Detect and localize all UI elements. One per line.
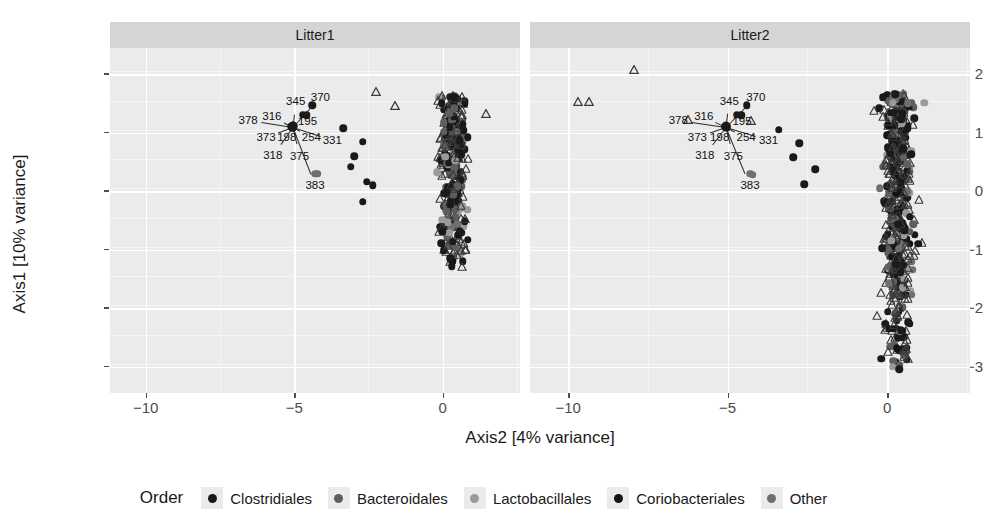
data-point-triangle bbox=[892, 228, 902, 238]
data-point-triangle bbox=[869, 106, 879, 116]
annotation-label: 254 bbox=[737, 131, 756, 143]
x-tick-label: −10 bbox=[538, 399, 598, 416]
data-point-triangle bbox=[890, 175, 900, 185]
gridline-vertical-minor bbox=[648, 48, 649, 393]
legend-item-coriobacteriales[interactable]: Coriobacteriales bbox=[607, 487, 744, 509]
data-point-circle bbox=[800, 180, 808, 188]
data-point-circle bbox=[889, 99, 897, 107]
legend-item-label: Coriobacteriales bbox=[636, 490, 744, 507]
data-point-circle bbox=[897, 326, 905, 334]
data-point-triangle bbox=[456, 201, 466, 211]
data-point-triangle bbox=[448, 170, 458, 180]
gridline-horizontal-minor bbox=[110, 276, 520, 277]
x-tick-label: −10 bbox=[116, 399, 176, 416]
legend-item-bacteroidales[interactable]: Bacteroidales bbox=[328, 487, 448, 509]
legend-item-label: Bacteroidales bbox=[357, 490, 448, 507]
data-point-circle bbox=[311, 170, 319, 178]
gridline-horizontal-minor bbox=[530, 71, 970, 72]
data-point-circle bbox=[446, 201, 454, 209]
panel-header-litter1: Litter1 bbox=[110, 22, 520, 48]
panel-header-litter2-label: Litter2 bbox=[731, 27, 770, 43]
data-point-circle bbox=[446, 93, 454, 101]
y-axis-title: Axis1 [10% variance] bbox=[6, 34, 34, 434]
data-point-triangle bbox=[893, 166, 903, 176]
data-point-circle bbox=[895, 245, 903, 253]
data-point-triangle bbox=[872, 311, 882, 321]
gridline-horizontal-minor bbox=[530, 364, 970, 365]
data-point-circle bbox=[448, 263, 456, 271]
annotation-label: 375 bbox=[724, 150, 743, 162]
data-point-circle bbox=[796, 140, 804, 148]
annotation-label: 370 bbox=[311, 91, 330, 103]
y-tick-mark bbox=[104, 366, 109, 368]
y-tick-mark bbox=[104, 132, 109, 134]
gridline-horizontal-minor bbox=[110, 71, 520, 72]
x-tick-label: 0 bbox=[857, 399, 917, 416]
annotation-label: 316 bbox=[262, 110, 281, 122]
data-point-circle bbox=[438, 100, 446, 108]
data-point-circle bbox=[878, 355, 886, 363]
data-point-triangle bbox=[889, 201, 899, 211]
data-point-triangle bbox=[446, 180, 456, 190]
data-point-triangle bbox=[458, 262, 468, 272]
data-point-circle bbox=[893, 345, 901, 353]
data-point-circle bbox=[359, 198, 367, 206]
data-point-circle bbox=[438, 239, 446, 247]
annotation-label: 375 bbox=[290, 150, 309, 162]
gridline-horizontal bbox=[530, 367, 970, 369]
gridline-horizontal bbox=[530, 74, 970, 76]
data-point-triangle bbox=[903, 278, 913, 288]
x-tick-label: −5 bbox=[698, 399, 758, 416]
data-point-circle bbox=[350, 152, 358, 160]
annotation-label: 370 bbox=[746, 91, 765, 103]
data-point-triangle bbox=[371, 87, 381, 97]
gridline-horizontal-minor bbox=[110, 305, 520, 306]
data-point-circle bbox=[908, 151, 916, 159]
scatter-panel-litter1: 378316345370195373198254331318375383 bbox=[110, 48, 520, 393]
annotation-label: 345 bbox=[286, 95, 305, 107]
data-point-circle bbox=[369, 182, 377, 190]
data-point-triangle bbox=[890, 313, 900, 323]
data-point-circle bbox=[879, 94, 887, 102]
gridline-vertical-minor bbox=[368, 48, 369, 393]
annotation-label: 195 bbox=[298, 115, 317, 127]
gridline-vertical-minor bbox=[220, 48, 221, 393]
legend-item-label: Clostridiales bbox=[230, 490, 312, 507]
data-point-circle bbox=[450, 105, 458, 113]
data-point-triangle bbox=[457, 105, 467, 115]
annotation-label: 318 bbox=[263, 149, 282, 161]
annotation-label: 198 bbox=[710, 131, 729, 143]
legend-key-swatch bbox=[464, 487, 486, 509]
annotation-label: 318 bbox=[695, 149, 714, 161]
data-point-circle bbox=[339, 124, 347, 132]
annotation-label: 373 bbox=[256, 131, 275, 143]
y-tick-mark bbox=[104, 307, 109, 309]
data-point-circle bbox=[888, 237, 896, 245]
data-point-circle bbox=[920, 99, 928, 107]
legend-key-swatch bbox=[201, 487, 223, 509]
annotation-label: 345 bbox=[720, 95, 739, 107]
legend-dot-icon bbox=[334, 494, 343, 503]
data-point-triangle bbox=[459, 239, 469, 249]
gridline-vertical-minor bbox=[807, 48, 808, 393]
x-tick-mark bbox=[443, 393, 445, 398]
data-point-triangle bbox=[573, 97, 583, 107]
data-point-triangle bbox=[903, 254, 913, 264]
data-point-triangle bbox=[452, 123, 462, 133]
data-point-circle bbox=[464, 133, 472, 141]
x-tick-label: −5 bbox=[264, 399, 324, 416]
legend-key-swatch bbox=[328, 487, 350, 509]
data-point-triangle bbox=[889, 142, 899, 152]
legend-item-lactobacillales[interactable]: Lactobacillales bbox=[464, 487, 591, 509]
data-point-circle bbox=[906, 213, 914, 221]
legend-title: Order bbox=[140, 488, 183, 508]
data-point-circle bbox=[904, 100, 912, 108]
annotation-label: 331 bbox=[323, 134, 342, 146]
data-point-circle bbox=[456, 137, 464, 145]
legend-item-clostridiales[interactable]: Clostridiales bbox=[201, 487, 312, 509]
data-point-triangle bbox=[457, 92, 467, 102]
legend-dot-icon bbox=[767, 494, 776, 503]
data-point-circle bbox=[897, 115, 905, 123]
panel-header-litter1-label: Litter1 bbox=[296, 27, 335, 43]
legend-item-other[interactable]: Other bbox=[761, 487, 828, 509]
